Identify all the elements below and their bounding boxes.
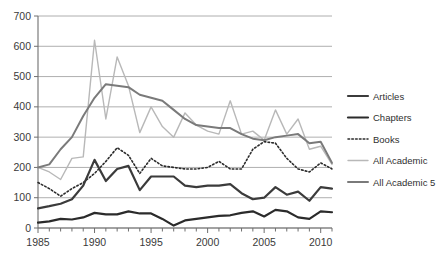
- x-axis-tick-labels: 198519901995200020052010: [26, 236, 332, 248]
- y-axis-tick-labels: 0100200300400500600700: [13, 10, 31, 234]
- y-tick-label: 500: [13, 70, 31, 82]
- legend-label-articles: Articles: [373, 91, 404, 102]
- chart-canvas: 0100200300400500600700 19851990199520002…: [0, 0, 445, 267]
- x-tick-label: 1990: [83, 236, 107, 248]
- legend-label-books: Books: [373, 134, 400, 145]
- chart-legend: ArticlesChaptersBooksAll AcademicAll Aca…: [348, 91, 435, 188]
- y-tick-label: 300: [13, 131, 31, 143]
- y-tick-label: 400: [13, 100, 31, 112]
- legend-label-chapters: Chapters: [373, 112, 412, 123]
- y-tick-label: 700: [13, 10, 31, 22]
- y-tick-label: 600: [13, 40, 31, 52]
- series-line-chapters: [38, 210, 332, 226]
- y-tick-label: 0: [25, 222, 31, 234]
- series-line-all-academic-5: [38, 84, 332, 167]
- x-tick-label: 2005: [252, 236, 276, 248]
- x-tick-label: 1995: [139, 236, 163, 248]
- legend-label-all-academic-5: All Academic 5: [373, 177, 435, 188]
- y-axis-ticks: [34, 16, 38, 228]
- grid-lines: [38, 16, 332, 228]
- y-tick-label: 200: [13, 161, 31, 173]
- x-tick-label: 2010: [309, 236, 333, 248]
- x-tick-label: 2000: [196, 236, 220, 248]
- line-chart: 0100200300400500600700 19851990199520002…: [0, 0, 445, 267]
- x-tick-label: 1985: [26, 236, 50, 248]
- legend-label-all-academic: All Academic: [373, 155, 428, 166]
- x-axis-ticks: [38, 228, 332, 233]
- y-tick-label: 100: [13, 191, 31, 203]
